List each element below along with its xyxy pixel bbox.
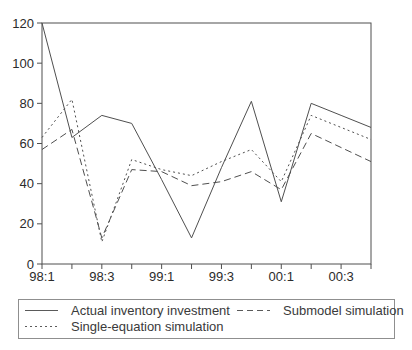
y-tick-label: 80: [20, 96, 34, 111]
legend-item-actual: Actual inventory investment: [25, 303, 237, 318]
y-tick-label: 100: [12, 56, 34, 71]
series-line-long-dash: [42, 129, 371, 237]
x-tick-label: 99:3: [209, 269, 234, 284]
x-tick-label: 98:1: [29, 269, 54, 284]
y-tick-label: 20: [20, 216, 34, 231]
y-tick-label: 60: [20, 136, 34, 151]
chart: 02040608010012098:198:399:199:300:100:3: [0, 0, 412, 296]
series-line-short-dash: [42, 99, 371, 242]
series-line-solid: [42, 23, 371, 238]
legend-label-actual: Actual inventory investment: [71, 303, 230, 318]
y-tick-label: 120: [12, 16, 34, 31]
chart-legend: Actual inventory investment Submodel sim…: [18, 299, 395, 339]
x-tick-label: 99:1: [149, 269, 174, 284]
x-tick-label: 00:3: [328, 269, 353, 284]
x-tick-label: 98:3: [89, 269, 114, 284]
chart-canvas: 02040608010012098:198:399:199:300:100:3: [0, 0, 412, 292]
short-dash-line-icon: [25, 326, 58, 327]
y-tick-label: 40: [20, 176, 34, 191]
solid-line-icon: [25, 310, 58, 311]
legend-item-single-equation: Single-equation simulation: [25, 319, 237, 334]
plot-frame: [42, 23, 371, 264]
long-dash-line-icon: [237, 310, 270, 311]
legend-label-single-equation: Single-equation simulation: [71, 319, 223, 334]
legend-item-submodel: Submodel simulation: [237, 303, 404, 318]
legend-label-submodel: Submodel simulation: [283, 303, 404, 318]
x-tick-label: 00:1: [269, 269, 294, 284]
inventory-investment-figure: 02040608010012098:198:399:199:300:100:3 …: [0, 0, 412, 350]
